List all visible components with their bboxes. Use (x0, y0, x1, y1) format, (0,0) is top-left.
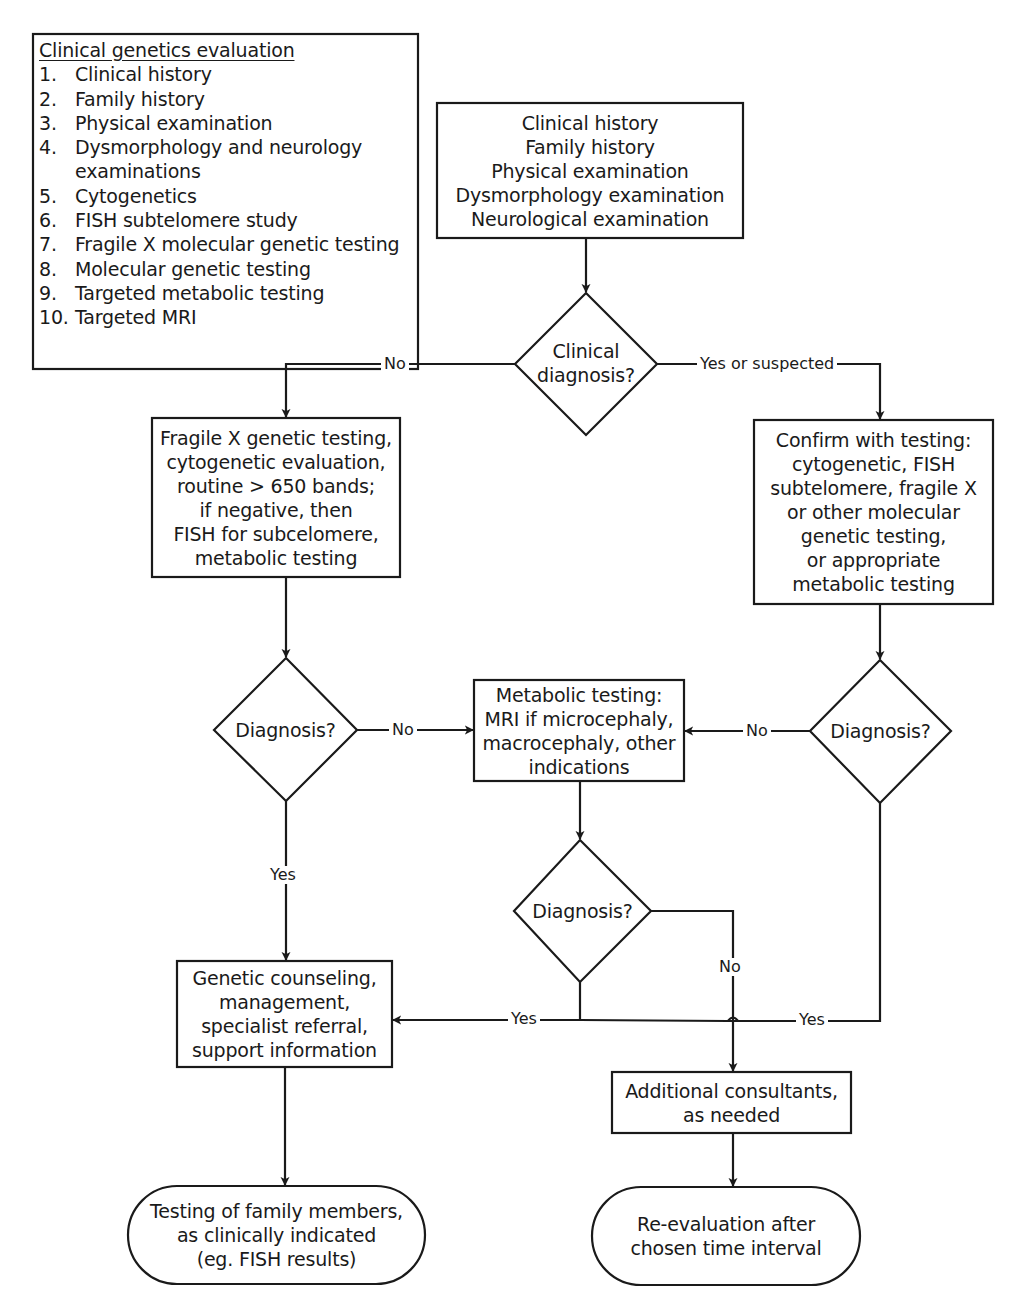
edge-label-left-yes: Yes (267, 866, 299, 884)
legend-item: 2.Family history (39, 87, 418, 111)
edge-label-middle-no: No (716, 958, 744, 976)
right-diagnosis-node: Diagnosis? (810, 717, 951, 745)
legend-item: 5.Cytogenetics (39, 184, 418, 208)
legend-item: 4.Dysmorphology and neurology (39, 135, 418, 159)
edge-label-middle-yes: Yes (508, 1010, 540, 1028)
edge-label-right-no: No (743, 722, 771, 740)
left-testing-node: Fragile X genetic testing, cytogenetic e… (152, 418, 400, 577)
legend-item: 3.Physical examination (39, 111, 418, 135)
legend-item: 8.Molecular genetic testing (39, 257, 418, 281)
left-diagnosis-node: Diagnosis? (214, 716, 357, 744)
start-node: Clinical history Family history Physical… (437, 103, 743, 238)
metabolic-node: Metabolic testing: MRI if microcephaly, … (474, 680, 684, 781)
legend-item: 9.Targeted metabolic testing (39, 281, 418, 305)
middle-diagnosis-node: Diagnosis? (514, 897, 651, 925)
legend-item: 6.FISH subtelomere study (39, 208, 418, 232)
edge-label-clinical-no: No (381, 355, 409, 373)
legend-item: 10.Targeted MRI (39, 305, 418, 329)
edge-label-clinical-yes: Yes or suspected (697, 355, 837, 373)
clinical-diagnosis-node: Clinical diagnosis? (515, 330, 657, 396)
legend-title: Clinical genetics evaluation (39, 38, 418, 62)
legend: Clinical genetics evaluation 1.Clinical … (33, 34, 418, 369)
edge-label-left-no: No (389, 721, 417, 739)
edge-middle-diagnosis-no (651, 911, 733, 1071)
edge-label-right-yes: Yes (796, 1011, 828, 1029)
legend-item: 7.Fragile X molecular genetic testing (39, 232, 418, 256)
legend-item: 1.Clinical history (39, 62, 418, 86)
counseling-node: Genetic counseling, management, speciali… (177, 961, 392, 1067)
right-confirm-node: Confirm with testing: cytogenetic, FISH … (754, 420, 993, 604)
reevaluation-node: Re-evaluation after chosen time interval (592, 1187, 860, 1285)
consultants-node: Additional consultants, as needed (612, 1072, 851, 1133)
family-testing-node: Testing of family members, as clinically… (128, 1186, 425, 1284)
legend-item-continuation: examinations (39, 159, 418, 183)
